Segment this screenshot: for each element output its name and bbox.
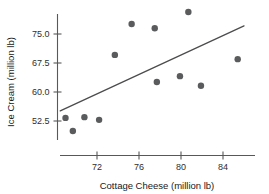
data-point	[70, 128, 76, 134]
data-point	[81, 114, 87, 120]
data-point	[152, 25, 158, 31]
y-tick-label: 52.5	[32, 116, 50, 126]
scatter-chart: 52.560.067.575.072768084 Cottage Cheese …	[0, 0, 269, 194]
data-points-group	[62, 9, 241, 134]
regression-line	[60, 26, 244, 111]
data-point	[128, 21, 134, 27]
y-tick-label: 75.0	[32, 29, 50, 39]
ticks-group	[54, 34, 224, 160]
y-axis-title: Ice Cream (million lb)	[5, 37, 16, 127]
x-tick-label: 80	[176, 162, 186, 172]
x-axis-title: Cottage Cheese (million lb)	[100, 180, 215, 191]
data-point	[185, 9, 191, 15]
y-tick-label: 60.0	[32, 87, 50, 97]
data-point	[112, 52, 118, 58]
x-tick-label: 72	[92, 162, 102, 172]
x-tick-label: 76	[134, 162, 144, 172]
data-point	[177, 73, 183, 79]
y-tick-label: 67.5	[32, 58, 50, 68]
trend-line	[60, 26, 244, 111]
data-point	[96, 117, 102, 123]
data-point	[235, 56, 241, 62]
x-tick-label: 84	[218, 162, 228, 172]
plot-area: 52.560.067.575.072768084 Cottage Cheese …	[0, 0, 269, 194]
data-point	[154, 79, 160, 85]
tick-labels-group: 52.560.067.575.072768084	[32, 29, 228, 171]
data-point	[62, 115, 68, 121]
data-point	[198, 83, 204, 89]
